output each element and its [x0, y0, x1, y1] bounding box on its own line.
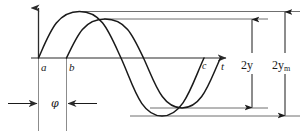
- waveform-curve-2: [67, 19, 221, 108]
- label-point-b: b: [69, 62, 75, 73]
- label-amplitude-2ym-subscript: m: [284, 64, 290, 73]
- waveform-curve-1: [39, 12, 205, 117]
- label-amplitude-2y: 2y: [241, 59, 253, 71]
- label-time-axis: t: [221, 61, 224, 72]
- label-amplitude-2ym-base: 2y: [272, 58, 284, 72]
- label-point-a: a: [41, 62, 47, 73]
- axes: [31, 8, 226, 58]
- waveform-phase-diagram: a b c t φ 2y 2ym: [0, 0, 307, 134]
- label-amplitude-2ym: 2ym: [272, 59, 290, 73]
- label-phase-shift-phi: φ: [51, 98, 59, 109]
- label-amplitude-2y-text: 2y: [241, 58, 253, 72]
- waveforms: [39, 12, 221, 117]
- label-point-c: c: [202, 61, 206, 71]
- reference-lines: [77, 12, 300, 117]
